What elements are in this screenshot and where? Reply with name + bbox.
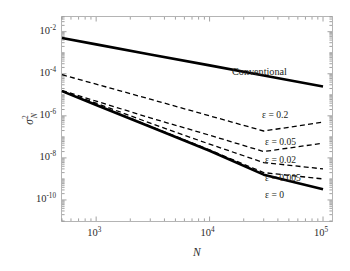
series-annotation: ε = 0.2: [262, 110, 288, 120]
x-axis-title: N: [193, 247, 201, 259]
series-line-Conventional: [62, 38, 323, 86]
chart-canvas: [0, 0, 350, 271]
y-tick-label: 10-10: [36, 194, 56, 205]
sigma-symbol: σ: [23, 119, 35, 125]
x-tick-label: 103: [87, 228, 101, 239]
figure-container: 10-210-410-610-810-10 103104105 σ2N N Co…: [0, 0, 350, 271]
series-annotation: ε = 0.02: [265, 155, 296, 165]
x-tick-label: 104: [201, 228, 215, 239]
y-tick-label: 10-8: [40, 152, 57, 163]
series-annotation: Conventional: [232, 67, 287, 77]
y-tick-label: 10-4: [40, 68, 57, 79]
series-line-eps-0.005: [62, 91, 323, 179]
series-annotation: ε = 0.005: [265, 173, 301, 183]
sigma-subscript: N: [30, 113, 39, 118]
y-axis-ticks: [62, 17, 332, 221]
series-annotation: ε = 0: [265, 190, 284, 200]
series-annotation: ε = 0.05: [265, 137, 296, 147]
plot-frame: [62, 17, 333, 222]
y-axis-title: σ2N: [15, 99, 45, 139]
x-tick-label: 105: [314, 228, 328, 239]
y-tick-label: 10-2: [40, 26, 57, 37]
y-axis-title-text: σ2N: [24, 113, 36, 124]
